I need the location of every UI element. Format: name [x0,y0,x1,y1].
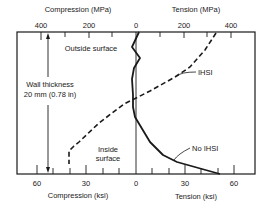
top-tick-label: 0 [134,21,138,30]
top-right-axis-title: Tension (MPa) [172,5,221,14]
ihsi-leader-line [177,72,196,76]
bottom-tick-labels: 60 30 0 30 60 [33,179,238,188]
wall-thickness-label-line2: 20 mm (0.78 in) [24,90,77,99]
wall-thickness-arrow [46,33,50,173]
no-ihsi-leader-line [174,148,190,160]
no-ihsi-label: No IHSI [192,144,218,153]
inside-surface-label-line1: Inside [98,145,118,154]
arrow-up-icon [46,33,50,39]
top-tick-label: 400 [225,21,238,30]
outside-surface-label: Outside surface [65,44,118,53]
ihsi-label: IHSI [198,68,213,77]
bottom-tick-label: 60 [33,179,41,188]
arrow-down-icon [46,167,50,173]
wall-thickness-label-line1: Wall thickness [26,80,74,89]
top-tick-labels: 400 200 0 200 400 [35,21,238,30]
bottom-tick-label: 60 [230,179,238,188]
residual-stress-chart: Compression (MPa) Tension (MPa) 400 200 … [0,0,268,208]
bottom-tick-label: 30 [181,179,189,188]
bottom-tick-label: 0 [134,179,138,188]
top-tick-label: 200 [178,21,191,30]
bottom-right-axis-title: Tension (ksi) [175,192,218,201]
top-left-axis-title: Compression (MPa) [45,5,112,14]
top-tick-label: 200 [83,21,96,30]
bottom-left-axis-title: Compression (ksi) [48,191,109,200]
top-tick-label: 400 [35,21,48,30]
inside-surface-label-line2: surface [96,154,121,163]
bottom-tick-label: 30 [82,179,90,188]
